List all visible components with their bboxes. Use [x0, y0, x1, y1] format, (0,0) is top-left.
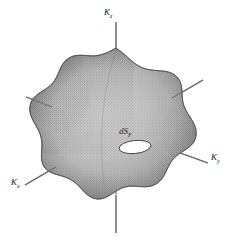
axis-label-kx-subscript: x — [17, 183, 20, 189]
axis-ky-right-stub — [180, 153, 208, 163]
surface-element-label: dSF — [119, 127, 132, 138]
surface-element-label-subscript: F — [128, 132, 132, 138]
blob-stipple — [24, 44, 204, 206]
fermi-surface-figure: Kz Ky Kx dSF — [0, 0, 232, 242]
axis-label-ky-subscript: y — [217, 158, 220, 164]
surface-element-label-base: dS — [119, 126, 128, 136]
axis-label-kx: Kx — [11, 178, 20, 189]
axis-label-kz-subscript: z — [110, 13, 112, 19]
axis-label-ky: Ky — [211, 153, 220, 164]
figure-canvas — [0, 0, 232, 242]
fermi-surface-blob — [24, 44, 204, 206]
axis-kx-left-stub — [25, 167, 56, 185]
axis-label-kz: Kz — [104, 8, 112, 19]
